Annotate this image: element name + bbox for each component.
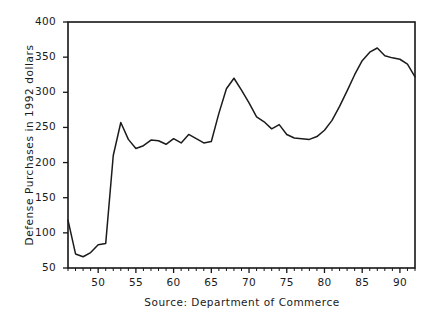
chart-figure: Defense Purchases in 1992 dollars 501001… [0, 0, 439, 322]
y-tick-label: 100 [22, 226, 56, 238]
y-tick-label: 250 [22, 120, 56, 132]
chart-source-caption: Source: Department of Commerce [68, 296, 416, 308]
x-tick-label: 90 [387, 276, 413, 288]
x-tick-label: 70 [236, 276, 262, 288]
y-tick-label: 200 [22, 156, 56, 168]
x-tick-label: 50 [85, 276, 111, 288]
data-line-defense-purchases [68, 48, 415, 257]
y-tick-label: 50 [22, 261, 56, 273]
y-tick-label: 400 [22, 15, 56, 27]
x-tick-label: 65 [198, 276, 224, 288]
y-tick-label: 350 [22, 50, 56, 62]
x-tick-label: 85 [349, 276, 375, 288]
y-tick-label: 150 [22, 191, 56, 203]
y-tick-label: 300 [22, 85, 56, 97]
x-tick-label: 55 [123, 276, 149, 288]
x-tick-label: 75 [274, 276, 300, 288]
x-tick-label: 80 [311, 276, 337, 288]
plot-area [0, 0, 439, 322]
x-tick-label: 60 [161, 276, 187, 288]
